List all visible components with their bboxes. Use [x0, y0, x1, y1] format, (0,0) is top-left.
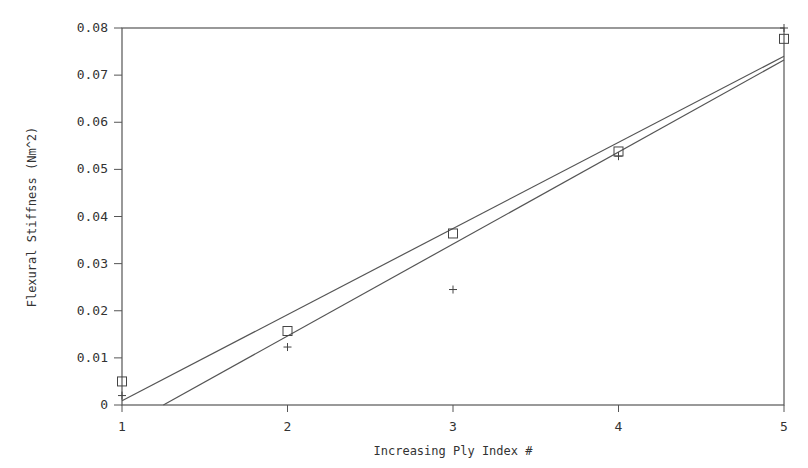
x-tick-label: 4: [615, 419, 623, 434]
y-tick-label: 0.06: [77, 114, 108, 129]
data-points: [118, 24, 789, 400]
y-axis-title: Flexural Stiffness (Nm^2): [25, 127, 39, 308]
plus-marker: [780, 24, 788, 32]
y-tick-label: 0.04: [77, 209, 108, 224]
y-axis: 00.010.020.030.040.050.060.070.08: [77, 20, 122, 412]
x-axis: 12345: [118, 405, 788, 434]
y-tick-label: 0.02: [77, 303, 108, 318]
x-tick-label: 1: [118, 419, 126, 434]
x-tick-label: 5: [780, 419, 788, 434]
plus-marker: [449, 286, 457, 294]
plus-marker: [118, 392, 126, 400]
fit-line: [163, 60, 784, 405]
chart: 00.010.020.030.040.050.060.070.08 12345 …: [0, 0, 808, 468]
x-axis-title: Increasing Ply Index #: [374, 444, 534, 458]
y-tick-label: 0: [100, 397, 108, 412]
x-tick-label: 3: [449, 419, 457, 434]
x-tick-label: 2: [284, 419, 292, 434]
y-tick-label: 0.03: [77, 256, 108, 271]
y-tick-label: 0.07: [77, 67, 108, 82]
fit-lines: [122, 56, 784, 405]
y-tick-label: 0.01: [77, 350, 108, 365]
y-tick-label: 0.05: [77, 161, 108, 176]
plus-marker: [284, 343, 292, 351]
y-tick-label: 0.08: [77, 20, 108, 35]
